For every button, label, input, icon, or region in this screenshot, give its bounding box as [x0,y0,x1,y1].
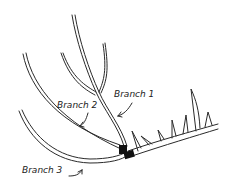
arrow-branch-1 [118,103,132,117]
branch-1-shoot [61,15,127,146]
tie-knot [119,145,135,159]
arrow-branch-3 [69,170,82,176]
label-branch-3: Branch 3 [22,165,62,175]
label-branch-1: Branch 1 [114,89,154,99]
main-stem [128,89,218,156]
branch-3-shoot [19,110,128,163]
label-branch-2: Branch 2 [57,100,97,110]
arrow-branch-2 [80,113,88,127]
